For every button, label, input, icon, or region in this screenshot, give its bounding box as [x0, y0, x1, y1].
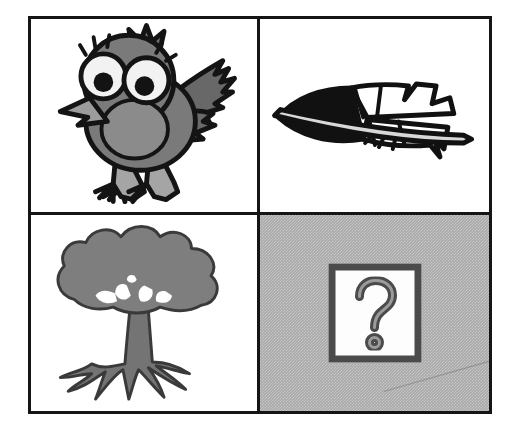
- puzzle-cell-tree[interactable]: [31, 215, 260, 411]
- feather-illustration: [260, 19, 489, 212]
- analogy-grid: [28, 16, 492, 414]
- tree-illustration: [31, 215, 257, 411]
- question-mark-icon: [349, 276, 401, 350]
- bird-illustration: [31, 19, 257, 212]
- puzzle-cell-feather[interactable]: [260, 19, 489, 215]
- puzzle-cell-bird[interactable]: [31, 19, 260, 215]
- question-mark-card[interactable]: [328, 264, 421, 363]
- puzzle-root: [0, 0, 518, 440]
- puzzle-cell-unknown[interactable]: [260, 215, 489, 411]
